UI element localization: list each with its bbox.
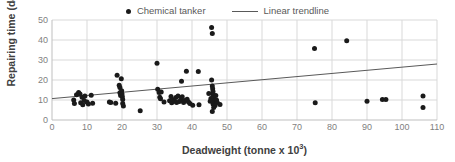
data-point[interactable] <box>421 94 426 99</box>
data-point[interactable] <box>82 94 87 99</box>
data-point[interactable] <box>113 101 118 106</box>
data-point[interactable] <box>108 100 113 105</box>
data-point[interactable] <box>162 100 167 105</box>
data-point[interactable] <box>121 104 126 109</box>
data-point[interactable] <box>421 105 426 110</box>
linear-trendline <box>52 64 437 99</box>
data-point[interactable] <box>313 100 318 105</box>
data-point[interactable] <box>208 99 213 104</box>
data-point[interactable] <box>206 91 211 96</box>
data-point[interactable] <box>159 90 164 95</box>
trendline-group <box>52 64 437 99</box>
data-point[interactable] <box>213 93 218 98</box>
data-point[interactable] <box>86 102 91 107</box>
data-point[interactable] <box>90 101 95 106</box>
data-point[interactable] <box>89 93 94 98</box>
data-point[interactable] <box>196 69 201 74</box>
data-point[interactable] <box>184 69 189 74</box>
data-point[interactable] <box>190 103 195 108</box>
axis-lines-group <box>52 20 437 120</box>
scatter-chart: Chemical tanker Linear trendline Repairi… <box>0 0 455 162</box>
data-point[interactable] <box>210 109 215 114</box>
data-point[interactable] <box>179 79 184 84</box>
data-point[interactable] <box>80 102 85 107</box>
data-point[interactable] <box>209 25 214 30</box>
data-point[interactable] <box>197 102 202 107</box>
data-point[interactable] <box>312 46 317 51</box>
data-point[interactable] <box>218 102 223 107</box>
data-point[interactable] <box>365 99 370 104</box>
data-point[interactable] <box>72 101 77 106</box>
data-point[interactable] <box>115 73 120 78</box>
data-point[interactable] <box>119 76 124 81</box>
data-point[interactable] <box>383 97 388 102</box>
data-point[interactable] <box>210 31 215 36</box>
data-point[interactable] <box>155 61 160 66</box>
plot-area <box>0 0 455 162</box>
gridlines-group <box>52 20 437 120</box>
data-point[interactable] <box>209 78 214 83</box>
data-point[interactable] <box>344 38 349 43</box>
data-point[interactable] <box>138 108 143 113</box>
